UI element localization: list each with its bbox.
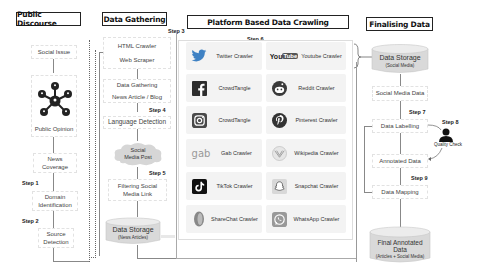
node-data-storage-social-title: Data Storage: [379, 54, 420, 62]
node-social-issue: Social Issue: [31, 45, 77, 59]
connector: [137, 69, 138, 79]
node-language-detection: Language Detection: [103, 116, 171, 129]
crawler-reddit: Reddit Crawler: [266, 74, 346, 102]
crawler-tiktok-label: TikTok Crawler: [207, 183, 262, 189]
crawler-twitter-label: Twitter Crawler: [207, 53, 262, 59]
node-domain-identification-label: Domain Identification: [33, 193, 77, 209]
connector: [53, 211, 54, 228]
node-final-annotated-data: Final Annotated Data (Articles + Social …: [369, 226, 431, 264]
youtube-you-text: You: [270, 53, 283, 60]
node-data-storage-news-sub: (News Articles): [118, 235, 148, 240]
connector: [356, 62, 357, 262]
crawler-pinterest: Pinterest Crawler: [266, 106, 346, 134]
gab-icon: gab: [191, 145, 211, 161]
crawler-pinterest-label: Pinterest Crawler: [287, 117, 346, 123]
crawler-gab-label: Gab Crawler: [211, 150, 262, 156]
crawler-wikipedia: Wikipedia Crawler: [266, 139, 346, 167]
node-html-crawler-label: HTML Crawler: [118, 42, 156, 50]
sharechat-icon: [191, 211, 207, 227]
instagram-icon: [191, 112, 207, 128]
loop-connector: [364, 126, 372, 127]
connector: [137, 245, 138, 258]
crawler-crowdtangle-instagram: CrowdTangle: [186, 106, 262, 134]
loop-connector: [99, 52, 100, 256]
crawler-sharechat-label: ShareChat Crawler: [207, 216, 262, 222]
quality-loop-arrows: [428, 122, 448, 172]
crawler-snapchat-label: Snapchat Crawler: [287, 183, 346, 189]
node-annotated-data: Annotated Data: [372, 154, 428, 168]
connector: [53, 59, 54, 73]
node-filtering-social-media-link: Filtering Social Media Link: [108, 179, 167, 201]
dotted-loop: [89, 40, 90, 262]
loop-connector: [364, 192, 372, 193]
connector: [176, 258, 356, 259]
node-news-coverage-label: News Coverage: [40, 155, 70, 171]
crawler-whatsapp-label: WhatsApp Crawler: [287, 216, 346, 222]
snapchat-icon: [271, 178, 287, 194]
header-finalising-data: Finalising Data: [366, 17, 433, 31]
connector: [176, 30, 177, 258]
connector: [400, 101, 401, 119]
connector: [137, 103, 138, 112]
header-public-discourse: Public Discourse: [16, 12, 81, 26]
crawler-crowdtangle-instagram-label: CrowdTangle: [207, 117, 262, 123]
crawler-reddit-label: Reddit Crawler: [287, 85, 346, 91]
node-language-detection-label: Language Detection: [108, 118, 166, 127]
connector: [400, 133, 401, 154]
connector: [137, 201, 138, 217]
node-source-detection-label: Source Detection: [39, 230, 73, 246]
node-social-issue-label: Social Issue: [38, 48, 70, 56]
dotted-loop: [89, 257, 96, 258]
youtube-icon: YouTube: [271, 48, 297, 64]
wikipedia-icon: [271, 145, 287, 161]
crawler-youtube-label: Youtube Crawler: [297, 53, 346, 59]
header-data-gathering: Data Gathering: [102, 12, 167, 26]
connector: [137, 129, 138, 141]
node-source-detection: Source Detection: [38, 228, 74, 248]
facebook-icon: [191, 80, 207, 96]
network-people-icon: [35, 81, 75, 117]
loop-connector: [364, 126, 365, 192]
crawler-crowdtangle-facebook: CrowdTangle: [186, 74, 262, 102]
node-social-media-data: Social Media Data: [372, 86, 428, 101]
crawler-sharechat: ShareChat Crawler: [186, 205, 262, 233]
whatsapp-icon: [271, 211, 287, 227]
node-data-gathering-label: Data Gathering: [117, 81, 158, 89]
step-2-label: Step 2: [22, 218, 39, 224]
node-final-line1: Final Annotated: [377, 239, 422, 247]
tiktok-icon: [191, 178, 207, 194]
node-data-gathering: Data Gathering News Article / Blog: [103, 79, 171, 103]
step-5-label: Step 5: [149, 170, 166, 176]
node-final-sub: (Articles + Social Media): [376, 254, 425, 259]
crawler-crowdtangle-facebook-label: CrowdTangle: [207, 85, 262, 91]
node-final-line2: Data: [393, 246, 407, 254]
connector: [137, 258, 176, 259]
header-platform-crawling: Platform Based Data Crawling: [187, 15, 349, 29]
node-html-crawler: HTML Crawler Web Scraper: [103, 37, 171, 69]
node-social-media-post-label: Social Media Post: [123, 147, 153, 160]
dotted-loop: [95, 50, 96, 256]
connector: [53, 173, 54, 191]
connector: [53, 261, 90, 262]
node-data-labelling-label: Data Labelling: [381, 122, 419, 130]
crawler-twitter: Twitter Crawler: [186, 42, 262, 70]
pinterest-icon: [271, 112, 287, 128]
node-data-mapping: Data Mapping: [372, 185, 428, 199]
node-domain-identification: Domain Identification: [32, 191, 78, 211]
crawler-wikipedia-label: Wikipedia Crawler: [287, 150, 346, 156]
crawler-tiktok: TikTok Crawler: [186, 172, 262, 200]
crawler-snapchat: Snapchat Crawler: [266, 172, 346, 200]
node-social-media-post: Social Media Post: [112, 141, 164, 167]
node-data-storage-news: Data Storage (News Articles): [105, 217, 161, 245]
connector: [53, 137, 54, 153]
crawler-gab: gab Gab Crawler: [186, 139, 262, 167]
node-news-article-label: News Article / Blog: [112, 93, 162, 101]
connector: [53, 248, 54, 261]
step-4-label: Step 4: [149, 107, 166, 113]
connector: [400, 74, 401, 86]
node-public-opinion: Public Opinion: [31, 75, 77, 137]
node-annotated-data-label: Annotated Data: [379, 157, 421, 165]
connector: [161, 235, 175, 238]
step-1-label: Step 1: [22, 180, 39, 186]
step-7-label: Step 7: [409, 109, 426, 115]
